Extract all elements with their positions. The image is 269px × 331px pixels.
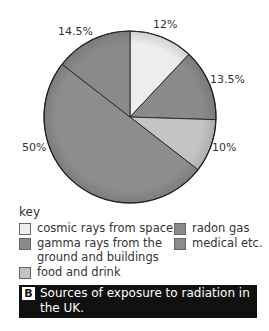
- legend-item-food: food and drink: [19, 265, 121, 279]
- legend-swatch: [19, 238, 31, 250]
- figure-badge: B: [22, 287, 35, 300]
- caption-text: Sources of exposure to radiation in the …: [40, 285, 257, 318]
- label-gamma: 14.5%: [58, 25, 93, 38]
- legend-item-medical: medical etc.: [174, 236, 263, 250]
- legend-item-cosmic: cosmic rays from space: [19, 221, 173, 235]
- legend-item-gamma: gamma rays from theground and buildings: [19, 236, 162, 264]
- label-food: 10%: [212, 141, 236, 154]
- label-medical: 50%: [22, 141, 46, 154]
- legend-swatch: [19, 223, 31, 235]
- label-radon: 13.5%: [210, 73, 245, 86]
- figure-caption: B Sources of exposure to radiation in th…: [19, 285, 257, 318]
- label-cosmic: 12%: [153, 18, 177, 31]
- legend-item-radon: radon gas: [174, 221, 249, 235]
- pie-chart: [0, 0, 269, 215]
- legend-swatch: [174, 223, 186, 235]
- legend-swatch: [174, 238, 186, 250]
- legend-title: key: [19, 205, 40, 219]
- legend-swatch: [19, 267, 31, 279]
